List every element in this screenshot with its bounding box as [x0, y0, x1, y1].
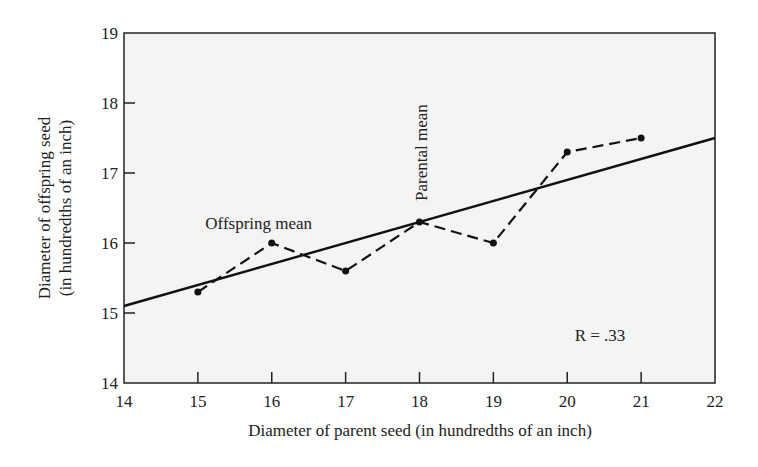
data-point	[194, 289, 201, 296]
x-tick-label: 19	[485, 392, 502, 411]
data-point	[342, 268, 349, 275]
x-tick-label: 16	[263, 392, 280, 411]
annotation-offspring-mean: Offspring mean	[205, 214, 312, 233]
x-axis-title: Diameter of parent seed (in hundredths o…	[248, 421, 592, 440]
y-tick-label: 17	[101, 164, 119, 183]
x-tick-label: 14	[116, 392, 134, 411]
annotation-r-33: R = .33	[575, 326, 626, 345]
data-point	[638, 135, 645, 142]
x-tick-label: 15	[189, 392, 206, 411]
y-tick-label: 14	[101, 374, 119, 393]
x-tick-label: 20	[559, 392, 576, 411]
plot-background	[124, 33, 715, 383]
y-tick-label: 18	[101, 94, 118, 113]
y-axis-title-line2: (in hundredths of an inch)	[56, 120, 75, 297]
x-tick-label: 18	[411, 392, 428, 411]
x-tick-label: 22	[707, 392, 724, 411]
data-point	[564, 149, 571, 156]
y-tick-label: 19	[101, 24, 118, 43]
annotation-parental-mean: Parental mean	[412, 104, 431, 201]
x-tick-label: 17	[337, 392, 355, 411]
y-tick-label: 15	[101, 304, 118, 323]
x-tick-label: 21	[633, 392, 650, 411]
y-axis-title: Diameter of offspring seed	[35, 116, 54, 299]
y-tick-label: 16	[101, 234, 118, 253]
data-point	[490, 240, 497, 247]
chart: 141516171819202122 141516171819 Offsprin…	[0, 0, 758, 467]
data-point	[268, 240, 275, 247]
